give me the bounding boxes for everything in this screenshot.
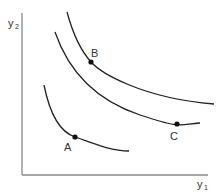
point-a-label: A [64, 141, 72, 153]
outer-curve [67, 12, 214, 104]
x-axis-label: y [197, 178, 203, 190]
indifference-curve-diagram: A B C y 2 y 1 [0, 0, 224, 192]
y-axis-label-sub: 2 [15, 23, 19, 30]
point-c [174, 121, 179, 126]
point-a [72, 134, 77, 139]
point-c-label: C [170, 130, 178, 142]
middle-curve [55, 32, 200, 125]
y-axis-label: y [8, 17, 14, 29]
point-b-label: B [91, 47, 98, 59]
x-axis-label-sub: 1 [204, 184, 208, 191]
inner-curve [44, 85, 129, 151]
point-b [88, 59, 93, 64]
